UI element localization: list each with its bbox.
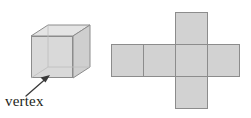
net-square-bottom xyxy=(176,77,208,109)
cube-solid xyxy=(31,25,90,78)
cube-face-front xyxy=(32,37,73,78)
geometry-figure: vertex xyxy=(0,0,251,118)
net-square-center xyxy=(176,45,208,77)
net-square-right xyxy=(208,45,240,77)
net-square-left xyxy=(112,45,144,77)
vertex-label: vertex xyxy=(5,92,44,110)
net-square-top xyxy=(176,13,208,45)
cube-net xyxy=(112,13,240,109)
net-square-middle-left xyxy=(144,45,176,77)
